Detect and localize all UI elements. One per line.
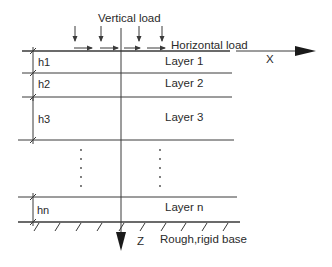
z-axis-arrowhead-icon [116,232,126,251]
x-axis-label: X [266,53,274,65]
layer-label-1: Layer 1 [165,55,203,67]
thickness-label-hn: hn [37,204,49,216]
vertical-load-arrows [75,26,162,41]
ellipsis-dots-right [159,149,161,187]
layer-label-3: Layer 3 [165,111,203,123]
layered-system-diagram: Vertical load Horizontal load X Z [0,0,332,267]
base-label: Rough,rigid base [160,233,247,245]
rigid-base-hatching [34,223,228,231]
thickness-label-h2: h2 [38,78,50,90]
z-axis-label: Z [137,235,144,247]
vertical-load-label: Vertical load [98,12,161,24]
horizontal-load-label: Horizontal load [171,39,248,51]
thickness-label-h1: h1 [38,56,50,68]
x-axis: X [236,46,316,65]
layer-label-2: Layer 2 [165,77,203,89]
x-axis-arrowhead-icon [295,46,316,56]
layer-label-n: Layer n [165,201,203,213]
layer-boundaries [18,51,240,222]
thickness-label-h3: h3 [38,113,50,125]
ellipsis-dots-left [80,149,82,187]
thickness-dimension-line [30,47,36,226]
